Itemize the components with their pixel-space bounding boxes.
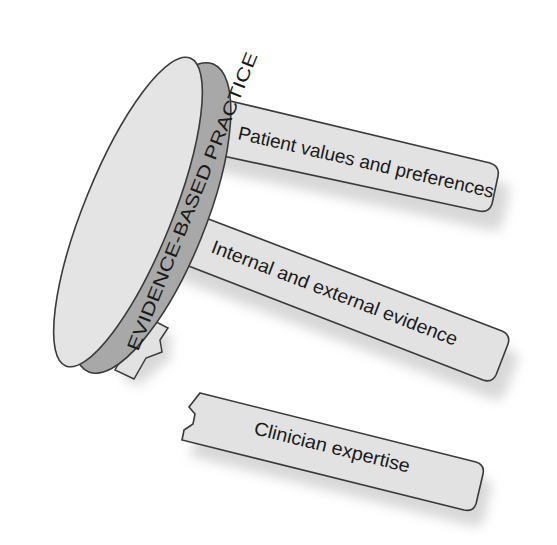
leg-clinician-expertise-broken: Clinician expertise bbox=[182, 393, 491, 526]
tabletop: EVIDENCE-BASED PRACTICE bbox=[25, 42, 263, 393]
leg-internal-external-evidence: Internal and external evidence bbox=[168, 212, 518, 400]
evidence-based-practice-diagram: Patient values and preferences Internal … bbox=[0, 0, 557, 545]
leg-patient-values: Patient values and preferences bbox=[195, 95, 509, 230]
